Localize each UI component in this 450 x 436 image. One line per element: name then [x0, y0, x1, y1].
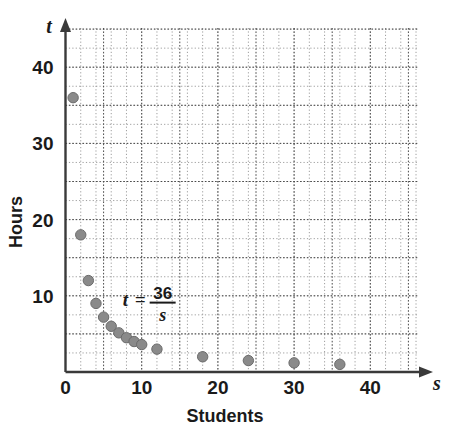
x-tick-label: 20	[207, 377, 228, 398]
data-point	[76, 230, 86, 240]
data-point	[83, 275, 93, 285]
x-tick-label: 10	[131, 377, 152, 398]
y-tick-label: 40	[32, 57, 53, 78]
data-point	[98, 312, 108, 322]
inverse-variation-scatter-plot: t s 010203040 10203040 Students Hours t …	[0, 0, 450, 436]
data-point	[152, 344, 162, 354]
equation-left-side: t	[123, 289, 129, 310]
x-axis-title: Students	[186, 406, 263, 426]
data-point	[289, 358, 299, 368]
y-tick-label: 30	[32, 133, 53, 154]
equation-numerator: 36	[153, 284, 172, 303]
chart-background	[0, 0, 450, 436]
x-tick-label: 40	[360, 377, 381, 398]
data-point	[243, 355, 253, 365]
x-axis-variable-label: s	[432, 372, 441, 394]
y-tick-label: 20	[32, 210, 53, 231]
data-point	[197, 352, 207, 362]
data-point	[335, 359, 345, 369]
y-tick-label: 10	[32, 286, 53, 307]
x-tick-label: 30	[284, 377, 305, 398]
x-tick-label: 0	[60, 377, 71, 398]
data-point	[91, 298, 101, 308]
equation-equals-sign: =	[135, 289, 146, 310]
y-axis-title: Hours	[6, 196, 26, 248]
data-point	[137, 339, 147, 349]
equation-denominator: s	[158, 305, 166, 325]
chart-container: t s 010203040 10203040 Students Hours t …	[0, 0, 450, 436]
data-point	[68, 92, 78, 102]
